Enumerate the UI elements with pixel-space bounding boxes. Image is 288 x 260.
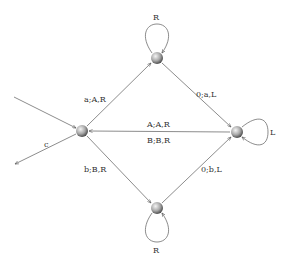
state-node-left [76, 125, 88, 137]
edge-incoming [14, 97, 76, 128]
state-node-right [231, 126, 243, 138]
label-left-top: a;A,R [84, 95, 107, 104]
label-loop-bottom: R [153, 246, 160, 255]
label-left-bottom: b;B,R [84, 165, 107, 174]
label-bottom-right: 0;b,L [201, 165, 222, 174]
edge-right-to-left [89, 131, 230, 132]
edge-outgoing-c [15, 134, 76, 164]
state-node-top [151, 52, 163, 64]
label-loop-right: L [270, 128, 276, 137]
state-node-bottom [151, 202, 163, 214]
label-outgoing-c: c [44, 140, 49, 149]
label-right-left-top: A;A,R [146, 120, 171, 129]
label-right-left-bottom: B;B,R [147, 136, 171, 145]
loop-right [242, 119, 268, 145]
state-diagram: a;A,R 0;a,L b;B,R 0;b,L A;A,R B;B,R c R … [0, 0, 288, 260]
label-top-right: 0;a,L [196, 90, 217, 99]
loop-top [145, 24, 168, 53]
label-loop-top: R [153, 13, 160, 22]
loop-bottom [145, 213, 168, 242]
